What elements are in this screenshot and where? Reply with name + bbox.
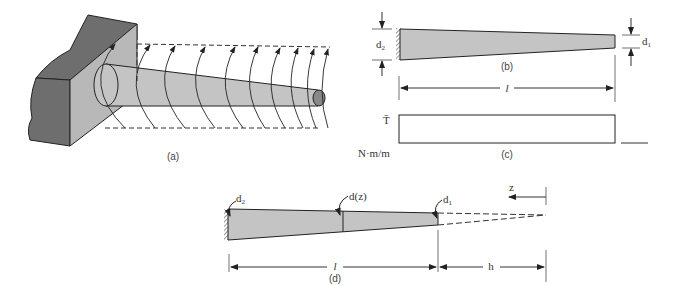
length-label-b: l (505, 82, 508, 94)
caption-a: (a) (167, 151, 179, 162)
caption-b: (b) (501, 61, 513, 72)
caption-c: (c) (501, 149, 513, 160)
tapered-beam-side (400, 29, 615, 60)
d1-label-d: d1 (443, 193, 453, 207)
panel-c: T̄ N·m/m (c) (358, 114, 648, 160)
d1-label-b: d1 (642, 35, 652, 49)
units-label-c: N·m/m (358, 147, 390, 159)
figure-canvas: (a) d2 d1 (b) l T̄ N·m/m (c) (0, 0, 673, 285)
torque-distribution-rect (399, 115, 615, 143)
length-label-d: l (333, 260, 336, 272)
wall-front-face (28, 78, 70, 146)
d2-label-d: d2 (236, 192, 246, 206)
tapered-beam-d (228, 209, 438, 240)
caption-d: (d) (329, 273, 341, 284)
torque-label-c: T̄ (383, 114, 390, 126)
panel-b: d2 d1 (b) l (372, 12, 652, 102)
panel-a: (a) (28, 15, 330, 162)
d2-label-b: d2 (376, 38, 386, 52)
panel-d: d2 d(z) d1 z l h (d) (224, 181, 546, 284)
shaft-tip-ellipse (313, 90, 325, 106)
extension-dashed (438, 213, 546, 225)
h-label-d: h (488, 260, 494, 272)
shaft-root-ellipse (94, 64, 118, 106)
dz-label-d: d(z) (349, 190, 367, 203)
z-axis-label: z (509, 181, 514, 193)
